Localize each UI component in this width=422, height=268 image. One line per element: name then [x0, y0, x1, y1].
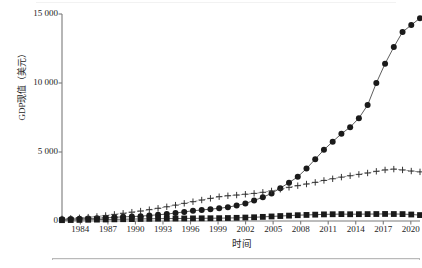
series-plus-marker: [329, 176, 335, 182]
series-plus-marker: [364, 170, 370, 176]
series-square-marker: [103, 217, 109, 223]
series-square-marker: [208, 215, 214, 221]
series-circle-marker: [400, 29, 406, 35]
series-square-marker: [59, 217, 65, 223]
series-plus-marker: [190, 198, 196, 204]
series-plus-marker: [225, 193, 231, 199]
series-square-marker: [155, 216, 161, 222]
series-circle-marker: [330, 139, 336, 145]
series-square-marker: [173, 216, 179, 222]
series-plus-marker: [373, 168, 379, 174]
series-circle-marker: [216, 205, 222, 211]
series-circle-marker: [408, 22, 414, 28]
series-square-marker: [138, 216, 144, 222]
series-circle-marker: [373, 80, 379, 86]
series-circle-marker: [173, 210, 179, 216]
series-plus-marker: [216, 194, 222, 200]
series-square-marker: [146, 216, 152, 222]
series-plus-marker: [251, 190, 257, 196]
series-square-marker: [181, 216, 187, 222]
series-square-marker: [382, 211, 388, 217]
series-plus-marker: [356, 171, 362, 177]
series-circle-marker: [365, 102, 371, 108]
series-circle-marker: [225, 204, 231, 210]
series-square-marker: [260, 214, 266, 220]
series-square-marker: [216, 215, 222, 221]
series-plus-marker: [338, 174, 344, 180]
series-square-marker: [417, 212, 422, 218]
series-circle-marker: [347, 124, 353, 130]
series-circle-marker: [382, 61, 388, 67]
series-square-marker: [373, 211, 379, 217]
series-plus-marker: [181, 200, 187, 206]
series-square-marker: [190, 215, 196, 221]
series-plus-marker: [137, 208, 143, 214]
series-plus-marker: [129, 209, 135, 215]
series-circle-marker: [242, 200, 248, 206]
series-plus-marker: [312, 179, 318, 185]
series-square-marker: [242, 215, 248, 221]
series-square-marker: [400, 211, 406, 217]
series-circle-marker: [181, 209, 187, 215]
series-plus-marker: [164, 204, 170, 210]
series-plus-marker: [347, 173, 353, 179]
series-plus-marker: [260, 189, 266, 195]
series-plus-marker: [303, 181, 309, 187]
series-plus-marker: [207, 195, 213, 201]
series-plus-marker: [417, 169, 422, 175]
series-circle-marker: [207, 206, 213, 212]
series-square-marker: [225, 215, 231, 221]
series-circle-marker: [391, 44, 397, 50]
series-square-marker: [391, 211, 397, 217]
series-circle-line: [62, 18, 420, 219]
series-plus-marker: [295, 182, 301, 188]
series-circle-marker: [321, 147, 327, 153]
series-square-marker: [111, 216, 117, 222]
series-circle-marker: [234, 203, 240, 209]
series-plus-marker: [242, 191, 248, 197]
series-square-marker: [330, 211, 336, 217]
series-square-marker: [356, 211, 362, 217]
series-circle-marker: [199, 207, 205, 213]
series-plus-marker: [233, 192, 239, 198]
series-circle-marker: [190, 208, 196, 214]
series-square-marker: [85, 217, 91, 223]
plot-canvas: [0, 0, 422, 268]
series-square-marker: [164, 216, 170, 222]
series-plus-marker: [382, 167, 388, 173]
series-square-marker: [295, 212, 301, 218]
chart-figure: GDP现值（美元） 时间 05 00010 00015 000 19841987…: [0, 0, 422, 268]
series-circle-marker: [312, 156, 318, 162]
series-plus-marker: [286, 184, 292, 190]
series-circle-marker: [251, 197, 257, 203]
series-square-marker: [94, 217, 100, 223]
series-square-marker: [234, 215, 240, 221]
series-circle-marker: [338, 131, 344, 137]
series-square-marker: [77, 217, 83, 223]
series-square-marker: [269, 214, 275, 220]
series-square-marker: [339, 211, 345, 217]
series-plus-marker: [199, 197, 205, 203]
series-square-marker: [129, 216, 135, 222]
series-square-marker: [304, 212, 310, 218]
series-circle-marker: [303, 166, 309, 172]
series-square-marker: [312, 212, 318, 218]
series-circle-marker: [295, 174, 301, 180]
series-square-marker: [365, 211, 371, 217]
series-square-marker: [277, 213, 283, 219]
series-plus-marker: [399, 167, 405, 173]
series-square-marker: [321, 211, 327, 217]
series-square-marker: [68, 217, 74, 223]
series-plus-marker: [172, 202, 178, 208]
series-square-marker: [199, 215, 205, 221]
series-circle: [59, 15, 422, 222]
series-plus-marker: [321, 177, 327, 183]
series-square-marker: [120, 216, 126, 222]
series-circle-marker: [356, 115, 362, 121]
bottom-divider-highlight: [53, 259, 419, 260]
series-plus-marker: [408, 168, 414, 174]
series-square-marker: [286, 213, 292, 219]
series-square-marker: [347, 211, 353, 217]
series-square-marker: [251, 214, 257, 220]
series-plus-marker: [391, 166, 397, 172]
